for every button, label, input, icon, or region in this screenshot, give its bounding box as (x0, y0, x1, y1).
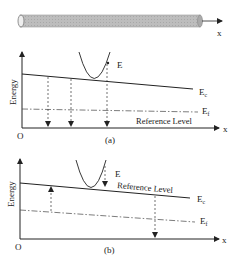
panel-a-origin-label: O (17, 131, 24, 141)
panel-a-parabola (79, 52, 110, 79)
panel-a-e-label: E (117, 60, 123, 70)
panel-a-energy-label: Energy (8, 79, 18, 105)
panel-a: Energy O x E Ec Ef Reference Level (a) (8, 52, 228, 145)
panel-b-ef-label: Ef (200, 216, 208, 227)
rod: x (18, 15, 222, 38)
panel-b-e-label: E (115, 169, 121, 179)
rod-x-label: x (217, 28, 222, 38)
panel-b-parabola (76, 160, 106, 188)
panel-b-origin-label: O (15, 242, 22, 252)
panel-a-ef-line (22, 109, 198, 112)
band-diagram: x Energy O x E Ec Ef Reference Level (a)… (0, 0, 238, 268)
rod-body (20, 15, 200, 27)
panel-b-ec-label: Ec (197, 194, 206, 205)
panel-b-x-label: x (222, 235, 227, 245)
panel-a-x-label: x (223, 124, 228, 134)
rod-end-right (198, 15, 203, 27)
panel-b-ef-line (20, 210, 195, 222)
panel-b-caption: (b) (104, 245, 115, 255)
panel-a-ec-label: Ec (199, 87, 208, 98)
rod-end-left (18, 15, 24, 27)
panel-a-caption: (a) (105, 135, 115, 145)
panel-b: Energy O x E Reference Level Ec Ef (b) (6, 159, 227, 255)
panel-a-ef-label: Ef (202, 106, 210, 117)
panel-b-energy-label: Energy (6, 181, 16, 207)
panel-a-reference-label: Reference Level (136, 116, 193, 126)
panel-a-electron-point (107, 62, 109, 64)
